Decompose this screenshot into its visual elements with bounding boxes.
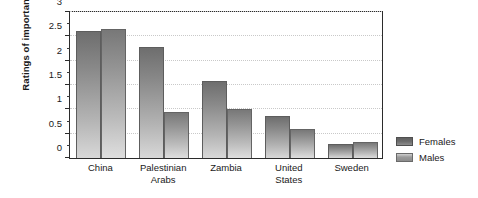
y-axis-title: Ratings of importance — [20, 0, 31, 105]
bar-group — [265, 12, 315, 158]
x-axis-label: Zambia — [195, 162, 258, 174]
y-axis-tick-label: 2 — [57, 44, 62, 55]
chart-legend: FemalesMales — [396, 133, 476, 165]
x-axis-label-line: China — [69, 162, 132, 174]
bar-males[interactable] — [290, 129, 315, 158]
y-axis-tick-label: 2.5 — [49, 20, 62, 31]
bar-females[interactable] — [328, 144, 353, 158]
y-axis-tick-label: 0.5 — [49, 117, 62, 128]
bar-males[interactable] — [164, 112, 189, 158]
x-axis-label-line: States — [257, 174, 320, 186]
bar-females[interactable] — [76, 31, 101, 158]
legend-label: Females — [419, 136, 455, 147]
x-axis-label: Sweden — [320, 162, 383, 174]
bar-females[interactable] — [139, 47, 164, 158]
y-axis-tick-label: 0 — [57, 142, 62, 153]
x-axis-label: UnitedStates — [257, 162, 320, 185]
x-axis-label: China — [69, 162, 132, 174]
x-axis-label: PalestinianArabs — [132, 162, 195, 185]
x-axis-label-line: United — [257, 162, 320, 174]
bar-males[interactable] — [353, 142, 378, 158]
bar-males[interactable] — [227, 109, 252, 158]
bars-layer — [70, 12, 382, 158]
legend-item-males[interactable]: Males — [396, 149, 476, 165]
bar-females[interactable] — [202, 81, 227, 158]
x-axis-label-line: Sweden — [320, 162, 383, 174]
legend-swatch-icon — [396, 153, 413, 162]
plot-area: 00.511.522.53 — [69, 11, 383, 159]
bar-group — [76, 12, 126, 158]
y-axis-tick-label: 3 — [57, 0, 62, 7]
x-axis-label-line: Palestinian — [132, 162, 195, 174]
bar-group — [139, 12, 189, 158]
bar-males[interactable] — [101, 29, 126, 158]
x-axis-labels-layer: ChinaPalestinianArabsZambiaUnitedStatesS… — [69, 162, 383, 198]
y-axis-tick-label: 1.5 — [49, 69, 62, 80]
x-axis-label-line: Zambia — [195, 162, 258, 174]
chart-figure: Ratings of importance 00.511.522.53 Chin… — [0, 0, 478, 198]
bar-females[interactable] — [265, 116, 290, 158]
legend-swatch-icon — [396, 137, 413, 146]
bar-group — [328, 12, 378, 158]
bar-group — [202, 12, 252, 158]
y-axis-tick-label: 1 — [57, 93, 62, 104]
legend-item-females[interactable]: Females — [396, 133, 476, 149]
legend-label: Males — [419, 152, 444, 163]
x-axis-label-line: Arabs — [132, 174, 195, 186]
